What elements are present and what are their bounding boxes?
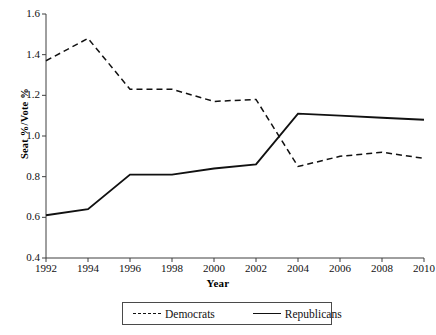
series-line-democrats [46,38,424,166]
y-axis-ticks [42,14,46,258]
chart-figure: 0.40.60.81.01.21.41.6 Seat %/Vote % 1992… [0,0,436,335]
x-axis-tick-label: 2002 [234,263,278,274]
x-axis-tick-label: 2004 [276,263,320,274]
legend-dashed-line-icon [133,309,161,319]
x-axis-tick-label: 1998 [150,263,194,274]
x-axis-tick-label: 1996 [108,263,152,274]
legend-item-democrats: Democrats [133,303,215,324]
x-axis-ticks [46,258,424,262]
series-lines [46,38,424,215]
chart-legend: Democrats Republicans [122,302,332,325]
legend-label-democrats: Democrats [165,308,215,320]
x-axis-tick-label: 2000 [192,263,236,274]
legend-item-republicans: Republicans [253,303,342,324]
x-axis-title: Year [0,277,436,289]
legend-solid-line-icon [253,309,281,319]
series-line-republicans [46,114,424,216]
legend-label-republicans: Republicans [285,308,342,320]
x-axis-tick-label: 2008 [360,263,404,274]
x-axis-tick-label: 2006 [318,263,362,274]
axis-lines [46,14,424,258]
x-axis-tick-label: 1992 [24,263,68,274]
x-axis-tick-label: 1994 [66,263,110,274]
x-axis-tick-label: 2010 [402,263,436,274]
